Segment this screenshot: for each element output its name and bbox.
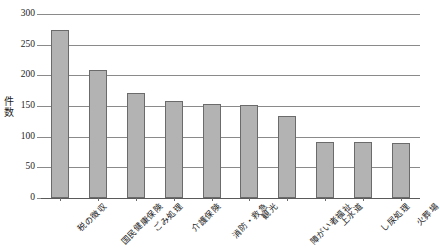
y-axis-tick: [37, 75, 41, 76]
y-axis-tick-label: 250: [11, 40, 35, 50]
bar: [278, 116, 296, 198]
y-axis-tick: [37, 14, 41, 15]
y-axis-tick-label: 150: [11, 101, 35, 111]
y-axis-tick: [37, 45, 41, 46]
x-axis-tick: [401, 198, 402, 201]
y-axis-tick-label: 300: [11, 9, 35, 19]
bar: [316, 142, 334, 198]
bar: [51, 30, 69, 198]
bar: [165, 101, 183, 198]
gridline: [41, 14, 420, 15]
bar: [203, 104, 221, 198]
x-axis-tick-label: 火葬場: [415, 202, 440, 227]
y-axis-tick-label: 50: [11, 162, 35, 172]
y-axis-tick: [37, 167, 41, 168]
y-axis-tick-labels: 050100150200250300: [11, 0, 35, 251]
bar: [127, 93, 145, 198]
plot-area: [41, 14, 420, 198]
bar: [240, 105, 258, 198]
bar: [354, 142, 372, 198]
bar: [89, 70, 107, 198]
y-axis-tick: [37, 106, 41, 107]
y-axis-tick-label: 0: [11, 193, 35, 203]
x-axis-tick: [136, 198, 137, 201]
x-axis-tick: [249, 198, 250, 201]
y-axis-tick-label: 200: [11, 70, 35, 80]
x-axis-tick: [174, 198, 175, 201]
gridline: [41, 45, 420, 46]
bar: [392, 143, 410, 198]
x-axis-tick: [287, 198, 288, 201]
x-axis-tick: [212, 198, 213, 201]
x-axis-tick: [98, 198, 99, 201]
x-axis-tick-label: 消防・救急: [231, 202, 269, 240]
x-axis-tick-label: し尿処理: [380, 202, 412, 234]
x-axis-tick: [363, 198, 364, 201]
x-axis-tick-labels: 税の徴収国民健康保険ごみ処理介護保険消防・救急観光障がい者福祉上水道し尿処理火葬…: [41, 198, 427, 251]
x-axis-tick: [60, 198, 61, 201]
x-axis-tick: [325, 198, 326, 201]
x-axis-tick-label: 税の徴収: [76, 202, 108, 234]
x-axis-tick-label: 介護保険: [190, 202, 222, 234]
y-axis-tick: [37, 137, 41, 138]
y-axis-tick-label: 100: [11, 132, 35, 142]
